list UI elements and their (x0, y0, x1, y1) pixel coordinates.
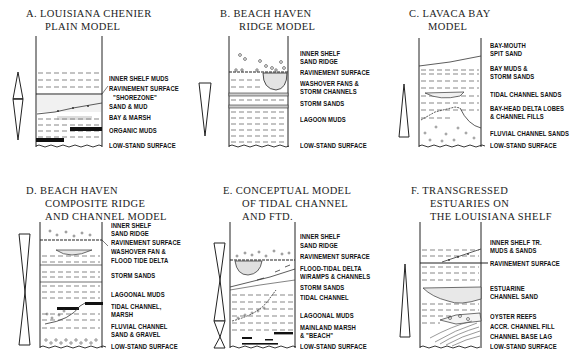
panel-e-title: E. CONCEPTUAL MODEL OF TIDAL CHANNEL AND… (223, 184, 351, 223)
label-ravinement-surface: RAVINEMENT SURFACE (300, 253, 370, 261)
label-ravinement-surface: RAVINEMENT SURFACE (109, 85, 179, 93)
label-ravinement-surface: RAVINEMENT SURFACE (490, 260, 560, 268)
panel-d-title: D. BEACH HAVEN COMPOSITE RIDGE AND CHANN… (26, 184, 167, 223)
label-low-stand-surface: LOW-STAND SURFACE (490, 343, 557, 351)
label-inner-shelf: INNER SHELF (300, 233, 340, 241)
label-fluvial-channel-sands: FLUVIAL CHANNEL SANDS (490, 130, 569, 138)
panel-e-column (190, 220, 300, 363)
label-low-stand-surface: LOW-STAND SURFACE (490, 142, 557, 150)
upward-wedge-icon (399, 84, 409, 137)
label-ramps-and-channels: W/RAMPS & CHANNELS (300, 273, 370, 281)
label-inner-shelf-muds: INNER SHELF MUDS (109, 75, 169, 83)
label-lagoonal-muds: LAGOONAL MUDS (300, 312, 354, 320)
label-low-stand-surface: LOW-STAND SURFACE (300, 343, 367, 351)
double-hourglass-wedge-icon (214, 243, 225, 321)
label-sand-and-gravel: SAND & GRAVEL (111, 331, 160, 339)
label-marsh: MARSH (111, 311, 133, 319)
label-channel-base-lag: CHANNEL BASE LAG (490, 333, 552, 341)
panel-a-column (0, 0, 110, 160)
label-low-stand-surface: LOW-STAND SURFACE (111, 343, 178, 351)
hourglass-wedge-icon (19, 234, 30, 345)
label-lagoon-muds: LAGOON MUDS (300, 116, 346, 124)
label-spit-sand: SPIT SAND (490, 50, 522, 58)
panel-f-column (380, 220, 490, 363)
label-tidal-channel: TIDAL CHANNEL (300, 294, 349, 302)
label-storm-sands: STORM SANDS (300, 100, 344, 108)
panel-d-title-line-1: D. BEACH HAVEN (26, 184, 167, 197)
label-accr-channel-fill: ACCR. CHANNEL FILL (490, 323, 555, 331)
label-channel-sand: CHANNEL SAND (490, 293, 538, 301)
label-sand-ridge: SAND RIDGE (111, 230, 149, 238)
panel-e-title-line-2: OF TIDAL CHANNEL (223, 197, 351, 210)
label-storm-channels: STORM CHANNELS (300, 88, 357, 96)
label-storm-sands: STORM SANDS (300, 284, 344, 292)
label-flood-tide-delta: FLOOD TIDE DELTA (111, 257, 168, 265)
label-muds-and-sands: MUDS & SANDS (490, 247, 537, 255)
label-sand-and-mud: SAND & MUD (109, 103, 147, 111)
label-storm-sands: STORM SANDS (490, 73, 534, 81)
panel-f-title: F. TRANSGRESSED ESTUARIES ON THE LOUISIA… (411, 184, 552, 223)
label-channel-fills: & CHANNEL FILLS (490, 113, 544, 121)
label-storm-sands: STORM SANDS (111, 272, 155, 280)
label-lagoonal-muds: LAGOONAL MUDS (111, 291, 165, 299)
label-bay-and-marsh: BAY & MARSH (109, 114, 151, 122)
label-beach: & "BEACH" (300, 332, 333, 340)
panel-f-title-line-2: ESTUARIES ON (411, 197, 552, 210)
label-sand-ridge: SAND RIDGE (300, 58, 338, 66)
panel-f-title-line-1: F. TRANSGRESSED (411, 184, 552, 197)
label-low-stand-surface: LOW-STAND SURFACE (109, 142, 176, 150)
label-washover-fan: WASHOVER FAN & (111, 248, 166, 256)
panel-d-column (0, 220, 110, 363)
label-ravinement-surface: RAVINEMENT SURFACE (111, 239, 181, 247)
label-sand-ridge: SAND RIDGE (300, 242, 338, 250)
label-oyster-reefs: OYSTER REEFS (490, 313, 537, 321)
label-tidal-channel-sands: TIDAL CHANNEL SANDS (490, 91, 561, 99)
double-arrow-icon (13, 72, 23, 99)
panel-d-title-line-2: COMPOSITE RIDGE (26, 197, 167, 210)
label-shorezone: "SHOREZONE" (113, 94, 157, 102)
label-organic-muds: ORGANIC MUDS (109, 127, 157, 135)
upward-wedge-icon (400, 264, 410, 337)
label-ravinement-surface: RAVINEMENT SURFACE (300, 69, 370, 77)
panel-e-title-line-1: E. CONCEPTUAL MODEL (223, 184, 351, 197)
panel-c-column (380, 0, 490, 160)
panel-b-column (190, 0, 300, 160)
downward-wedge-icon (199, 83, 211, 136)
label-low-stand-surface: LOW-STAND SURFACE (300, 142, 367, 150)
